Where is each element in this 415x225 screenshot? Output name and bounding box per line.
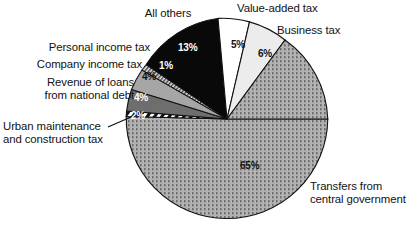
value-company-income-tax: 4%: [142, 71, 156, 82]
value-revenue-of-loans: 4%: [134, 92, 148, 103]
value-transfers: 65%: [240, 160, 259, 171]
value-value-added-tax: 5%: [231, 39, 245, 50]
label-all-others: All others: [113, 7, 223, 20]
value-urban-maintenance: 2%: [131, 110, 145, 121]
label-transfers-central-government: Transfers from central government: [310, 180, 406, 207]
label-urban-maintenance-tax: Urban maintenance and construction tax: [3, 120, 103, 147]
value-business-tax: 6%: [258, 48, 272, 59]
label-company-income-tax: Company income tax: [0, 58, 142, 71]
value-personal-income-tax: 1%: [159, 60, 173, 71]
pie-chart: All others Value-added tax Business tax …: [0, 0, 415, 225]
label-value-added-tax: Value-added tax: [237, 2, 318, 15]
label-personal-income-tax: Personal income tax: [0, 41, 150, 54]
pie-slice-transfers[interactable]: [126, 117, 328, 219]
label-revenue-of-loans: Revenue of loans from national debt: [0, 76, 134, 103]
value-all-others: 13%: [178, 42, 197, 53]
label-business-tax: Business tax: [277, 24, 340, 37]
